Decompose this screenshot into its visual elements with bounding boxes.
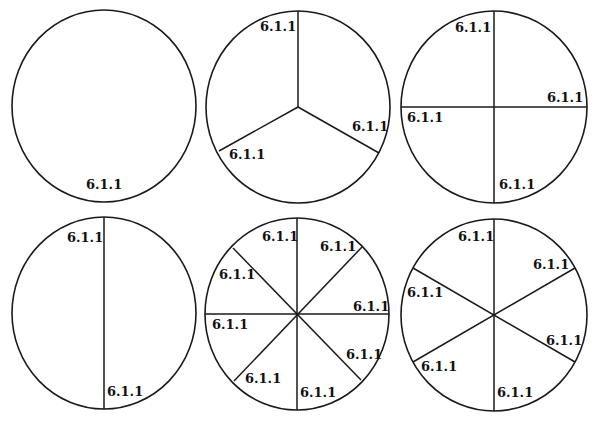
sector-label: 6.1.1 — [229, 147, 265, 162]
fraction-circles-diagram: 6.1.16.1.16.1.16.1.16.1.16.1.16.1.16.1.1… — [0, 0, 596, 426]
circle-whole: 6.1.1 — [12, 10, 196, 202]
circle-outline — [12, 10, 196, 202]
sector-label: 6.1.1 — [86, 177, 122, 192]
sector-label: 6.1.1 — [499, 177, 535, 192]
sector-label: 6.1.1 — [458, 229, 494, 244]
sector-label: 6.1.1 — [300, 385, 336, 400]
sector-label: 6.1.1 — [547, 90, 583, 105]
circle-thirds: 6.1.16.1.16.1.1 — [206, 11, 390, 203]
sector-label: 6.1.1 — [107, 384, 143, 399]
sector-label: 6.1.1 — [245, 371, 281, 386]
sector-label: 6.1.1 — [346, 347, 382, 362]
sector-label: 6.1.1 — [353, 299, 389, 314]
sector-label: 6.1.1 — [421, 359, 457, 374]
sector-label: 6.1.1 — [212, 317, 248, 332]
sector-label: 6.1.1 — [533, 257, 569, 272]
circle-sixths: 6.1.16.1.16.1.16.1.16.1.16.1.1 — [401, 219, 587, 411]
sector-label: 6.1.1 — [320, 239, 356, 254]
sector-label: 6.1.1 — [219, 267, 255, 282]
circle-eighths: 6.1.16.1.16.1.16.1.16.1.16.1.16.1.16.1.1 — [205, 218, 389, 410]
sector-label: 6.1.1 — [67, 230, 103, 245]
sector-label: 6.1.1 — [455, 20, 491, 35]
sector-label: 6.1.1 — [260, 19, 296, 34]
sector-label: 6.1.1 — [407, 110, 443, 125]
circle-quarters: 6.1.16.1.16.1.16.1.1 — [401, 11, 587, 203]
circle-halves: 6.1.16.1.1 — [12, 217, 196, 409]
sector-label: 6.1.1 — [352, 119, 388, 134]
sector-label: 6.1.1 — [497, 385, 533, 400]
sector-label: 6.1.1 — [262, 229, 298, 244]
sector-label: 6.1.1 — [407, 285, 443, 300]
sector-label: 6.1.1 — [546, 333, 582, 348]
